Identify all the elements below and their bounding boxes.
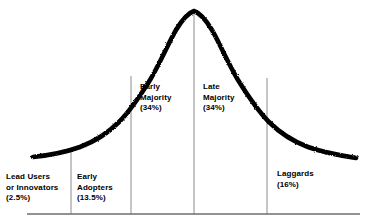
- early-majority-percentage: (34%): [140, 103, 171, 114]
- segment-label-early-majority: Early Majority (34%): [140, 82, 171, 114]
- laggards-line-1: Laggards: [277, 169, 314, 180]
- segment-label-late-majority: Late Majority (34%): [203, 82, 234, 114]
- segment-label-early-adopters: Early Adopters (13.5%): [77, 172, 113, 204]
- lead-users-line-2: or Innovators: [6, 183, 58, 194]
- late-majority-percentage: (34%): [203, 103, 234, 114]
- late-majority-line-1: Late: [203, 82, 234, 93]
- early-adopters-line-2: Adopters: [77, 183, 113, 194]
- lead-users-line-1: Lead Users: [6, 172, 58, 183]
- early-majority-line-2: Majority: [140, 93, 171, 104]
- early-adopters-line-1: Early: [77, 172, 113, 183]
- early-adopters-percentage: (13.5%): [77, 193, 113, 204]
- segment-label-laggards: Laggards (16%): [277, 169, 314, 190]
- segment-label-lead-users-or-innovators: Lead Users or Innovators (2.5%): [6, 172, 58, 204]
- laggards-percentage: (16%): [277, 180, 314, 191]
- adoption-curve-chart: Lead Users or Innovators (2.5%) Early Ad…: [0, 0, 366, 224]
- early-majority-line-1: Early: [140, 82, 171, 93]
- lead-users-percentage: (2.5%): [6, 193, 58, 204]
- late-majority-line-2: Majority: [203, 93, 234, 104]
